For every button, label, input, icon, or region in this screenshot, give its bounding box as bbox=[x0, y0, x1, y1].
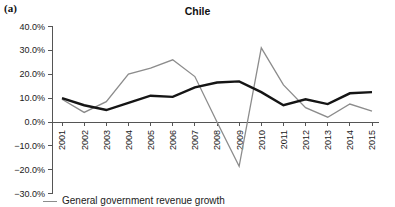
y-tick-label: 40.0% bbox=[19, 22, 45, 32]
x-tick-label: 2003 bbox=[102, 130, 112, 150]
series-line-expenditure bbox=[62, 81, 372, 110]
y-tick-label: 10.0% bbox=[19, 93, 45, 103]
y-tick-label: −20.0% bbox=[14, 165, 45, 175]
line-chart-plot: 40.0%30.0%20.0%10.0%0.0%−10.0%−20.0%−30.… bbox=[0, 0, 395, 207]
x-tick-label: 2012 bbox=[301, 130, 311, 150]
x-tick-label: 2006 bbox=[168, 130, 178, 150]
y-axis: 40.0%30.0%20.0%10.0%0.0%−10.0%−20.0%−30.… bbox=[14, 22, 52, 199]
x-tick-label: 2001 bbox=[57, 130, 67, 150]
x-tick-label: 2008 bbox=[212, 130, 222, 150]
x-tick-label: 2002 bbox=[80, 130, 90, 150]
y-tick-label: 20.0% bbox=[19, 69, 45, 79]
legend-label-revenue: General government revenue growth bbox=[62, 195, 225, 207]
legend-swatch-revenue bbox=[43, 201, 57, 202]
x-tick-label: 2007 bbox=[190, 130, 200, 150]
x-tick-label: 2014 bbox=[345, 130, 355, 150]
x-tick-label: 2013 bbox=[323, 130, 333, 150]
y-tick-label: 0.0% bbox=[24, 117, 45, 127]
chart-legend: General government revenue growth bbox=[43, 194, 225, 207]
y-tick-label: 30.0% bbox=[19, 45, 45, 55]
x-tick-label: 2015 bbox=[367, 130, 377, 150]
x-tick-label: 2011 bbox=[279, 130, 289, 149]
x-axis: 2001200220032004200520062007200820092010… bbox=[52, 122, 379, 150]
figure-container: (a) Chile 40.0%30.0%20.0%10.0%0.0%−10.0%… bbox=[0, 0, 395, 207]
x-tick-label: 2004 bbox=[124, 130, 134, 150]
x-tick-label: 2010 bbox=[257, 130, 267, 150]
x-tick-label: 2005 bbox=[146, 130, 156, 150]
y-tick-label: −10.0% bbox=[14, 141, 45, 151]
y-tick-label: −30.0% bbox=[14, 189, 45, 199]
